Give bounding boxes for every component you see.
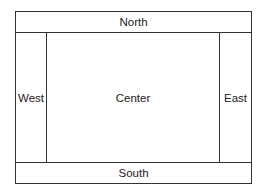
east-region: East — [219, 33, 251, 162]
border-layout-diagram: North West Center East South — [15, 11, 252, 184]
center-label: Center — [116, 92, 151, 104]
west-label: West — [18, 92, 44, 104]
west-region: West — [16, 33, 47, 162]
north-label: North — [119, 16, 147, 28]
south-label: South — [118, 167, 148, 179]
center-region: Center — [47, 33, 219, 162]
north-region: North — [16, 12, 251, 33]
south-region: South — [16, 162, 251, 183]
east-label: East — [224, 92, 247, 104]
